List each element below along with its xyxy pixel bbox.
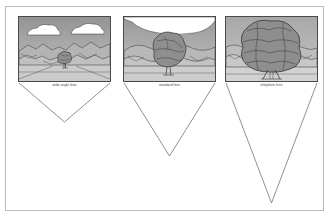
figure-canvas: wide angle lens bbox=[0, 0, 331, 221]
fov-cone-standard bbox=[123, 82, 216, 160]
photo-standard bbox=[123, 16, 216, 82]
photo-telephoto bbox=[225, 16, 318, 82]
fov-cone-telephoto bbox=[225, 82, 318, 208]
cone-telephoto bbox=[225, 82, 318, 208]
cone-outline bbox=[124, 83, 215, 156]
ground-plain bbox=[19, 65, 110, 81]
panel-standard: standard lens bbox=[123, 16, 216, 161]
tree-canopy bbox=[241, 20, 301, 72]
figure-frame: wide angle lens bbox=[5, 6, 324, 211]
tree-canopy bbox=[58, 51, 72, 64]
ground-plain bbox=[124, 66, 215, 81]
panel-telephoto: telephoto lens bbox=[225, 16, 318, 208]
cone-outline bbox=[226, 83, 317, 203]
cone-standard bbox=[123, 82, 216, 160]
panel-wide-angle: wide angle lens bbox=[18, 16, 111, 126]
fov-cone-wide bbox=[18, 82, 111, 126]
photo-wide-angle bbox=[18, 16, 111, 82]
cone-wide-angle bbox=[18, 82, 111, 126]
scene-wide-angle bbox=[19, 17, 110, 81]
scene-standard bbox=[124, 17, 215, 81]
scene-telephoto bbox=[226, 17, 317, 81]
cone-outline bbox=[19, 83, 110, 122]
